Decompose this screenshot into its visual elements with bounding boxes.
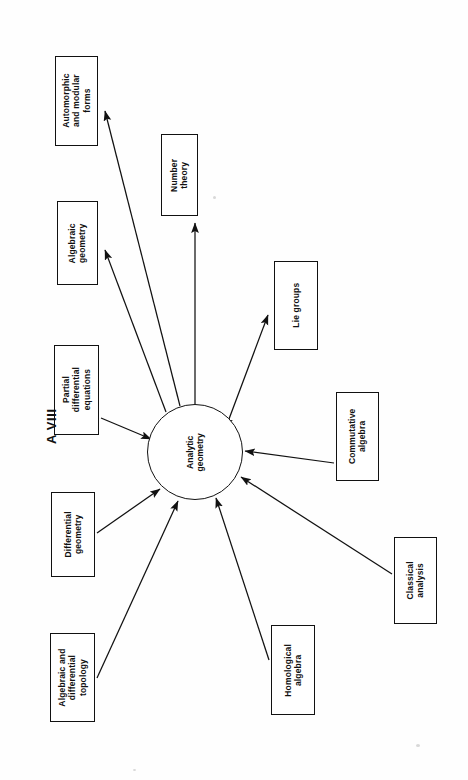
scan-speck (213, 196, 216, 199)
hub-node-label: Analytic geometry (185, 433, 206, 471)
node-box-label: Classical analysis (405, 561, 426, 599)
node-box-label: Algebraic geometry (67, 223, 88, 263)
node-box-label: Differential geometry (63, 511, 84, 557)
node-box-classical-analysis[interactable]: Classical analysis (394, 537, 437, 624)
edge-differential-geometry-to-hub (97, 489, 160, 533)
node-box-lie-groups[interactable]: Lie groups (274, 261, 318, 350)
hub-node-analytic-geometry[interactable]: Analytic geometry (147, 404, 243, 500)
edge-topology-to-hub (97, 501, 178, 678)
edge-hub-to-algebraic-geometry (105, 250, 166, 412)
node-box-label: Automorphic and modular forms (61, 74, 92, 129)
scan-speck (416, 744, 420, 747)
node-box-homological-algebra[interactable]: Homological algebra (271, 625, 315, 715)
edge-homological-to-hub (216, 498, 269, 660)
node-box-partial-differential-equations[interactable]: Partial differential equations (54, 345, 99, 435)
node-box-label: Partial differential equations (61, 367, 92, 412)
edge-classical-analysis-to-hub (241, 477, 392, 574)
scan-speck (133, 769, 136, 771)
node-box-differential-geometry[interactable]: Differential geometry (51, 492, 95, 577)
node-box-automorphic-and-modular-forms[interactable]: Automorphic and modular forms (55, 56, 98, 146)
node-box-label: Lie groups (291, 283, 301, 328)
node-box-label: Algebraic and differential topology (57, 648, 88, 706)
node-box-label: Homological algebra (283, 644, 304, 697)
node-box-number-theory[interactable]: Number theory (161, 134, 198, 216)
edge-hub-to-lie-groups (229, 315, 268, 419)
edge-pde-to-hub (101, 418, 151, 439)
figure-canvas: Analytic geometry Automorphic and modula… (0, 0, 468, 780)
node-box-label: Commutative algebra (347, 409, 368, 465)
edge-commutative-to-hub (245, 451, 334, 463)
figure-tag: A VIII (44, 408, 59, 444)
node-box-commutative-algebra[interactable]: Commutative algebra (336, 392, 379, 481)
node-box-algebraic-geometry[interactable]: Algebraic geometry (57, 201, 98, 285)
node-box-algebraic-and-differential-topology[interactable]: Algebraic and differential topology (50, 633, 95, 722)
node-box-label: Number theory (169, 158, 190, 191)
